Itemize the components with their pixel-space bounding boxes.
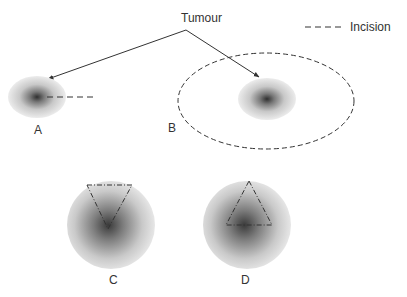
tumour-c: [67, 181, 155, 269]
panel-label-a: A: [34, 124, 42, 136]
panel-label-b: B: [168, 122, 176, 134]
panel-label-c: C: [109, 274, 118, 286]
arrow-to-tumour-a: [48, 30, 186, 79]
tumour-label: Tumour: [181, 12, 222, 24]
tumour-b: [238, 78, 296, 120]
diagram-canvas: [0, 0, 407, 297]
panel-label-d: D: [241, 274, 250, 286]
legend-label: Incision: [350, 21, 391, 33]
arrow-to-tumour-b: [186, 30, 259, 77]
